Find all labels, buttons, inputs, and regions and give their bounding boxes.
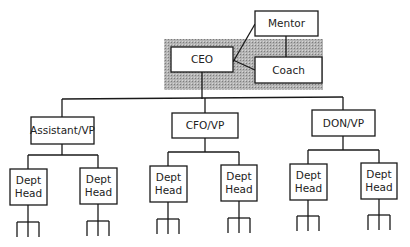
node-dept-head-2: DeptHead bbox=[80, 168, 117, 204]
sub-branch-forks bbox=[17, 199, 390, 237]
node-label: Dept bbox=[86, 173, 111, 185]
node-assistant-vp: Assistant/VP bbox=[30, 117, 95, 144]
node-dept-head-3: DeptHead bbox=[150, 166, 187, 202]
fork-dept-head-2 bbox=[87, 204, 109, 236]
fork-dept-head-3 bbox=[157, 202, 179, 234]
node-label: CFO/VP bbox=[186, 119, 225, 131]
node-mentor: Mentor bbox=[255, 11, 318, 36]
node-label: Dept bbox=[366, 168, 391, 180]
node-label: Head bbox=[295, 182, 322, 194]
node-cfo-vp: CFO/VP bbox=[172, 113, 238, 138]
node-coach: Coach bbox=[255, 57, 322, 83]
node-label: Assistant/VP bbox=[30, 124, 95, 136]
node-label: Head bbox=[15, 187, 42, 199]
node-label: Dept bbox=[296, 169, 321, 181]
node-dept-head-4: DeptHead bbox=[221, 165, 257, 201]
node-label: Head bbox=[85, 186, 112, 198]
node-don-vp: DON/VP bbox=[312, 110, 375, 136]
node-label: Mentor bbox=[268, 17, 306, 29]
org-chart: MentorCEOCoachAssistant/VPCFO/VPDON/VPDe… bbox=[0, 0, 410, 247]
fork-dept-head-5 bbox=[297, 200, 319, 231]
node-dept-head-1: DeptHead bbox=[10, 169, 47, 205]
node-dept-head-5: DeptHead bbox=[290, 164, 327, 200]
node-ceo: CEO bbox=[171, 47, 233, 72]
node-label: CEO bbox=[191, 53, 213, 65]
node-label: Head bbox=[365, 181, 392, 193]
fork-dept-head-6 bbox=[368, 199, 390, 230]
node-label: Coach bbox=[272, 64, 305, 76]
node-label: Dept bbox=[226, 170, 251, 182]
node-dept-head-6: DeptHead bbox=[361, 163, 397, 199]
node-label: Head bbox=[155, 184, 182, 196]
node-label: Head bbox=[225, 183, 252, 195]
node-label: DON/VP bbox=[323, 117, 364, 129]
fork-dept-head-4 bbox=[228, 201, 250, 233]
fork-dept-head-1 bbox=[17, 205, 39, 237]
node-label: Dept bbox=[156, 171, 181, 183]
node-label: Dept bbox=[16, 174, 41, 186]
